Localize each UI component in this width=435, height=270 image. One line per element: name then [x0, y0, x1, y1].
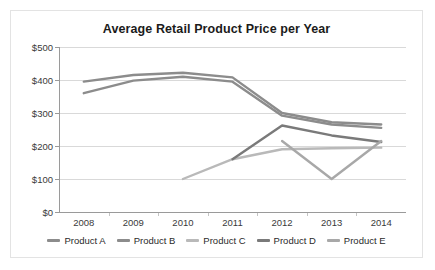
legend-item-product-e[interactable]: Product E [327, 235, 386, 246]
legend-swatch-icon [186, 239, 199, 242]
legend-swatch-icon [47, 239, 60, 242]
legend-swatch-icon [257, 239, 270, 242]
legend-swatch-icon [117, 239, 130, 242]
legend-item-product-b[interactable]: Product B [117, 235, 176, 246]
series-layer [11, 11, 424, 259]
legend-item-product-c[interactable]: Product C [186, 235, 245, 246]
legend-item-label: Product B [134, 235, 176, 246]
legend-item-product-a[interactable]: Product A [47, 235, 105, 246]
legend-item-label: Product D [274, 235, 316, 246]
chart-card: Average Retail Product Price per Year $0… [10, 10, 423, 258]
series-line-product-b [84, 77, 381, 128]
plot-wrapper: $0$100$200$300$400$500 20082009201020112… [11, 11, 424, 259]
legend-item-product-d[interactable]: Product D [257, 235, 316, 246]
legend-item-label: Product C [203, 235, 245, 246]
chart-legend: Product AProduct BProduct CProduct DProd… [11, 235, 422, 246]
legend-item-label: Product A [64, 235, 105, 246]
legend-swatch-icon [327, 239, 340, 242]
legend-item-label: Product E [344, 235, 386, 246]
